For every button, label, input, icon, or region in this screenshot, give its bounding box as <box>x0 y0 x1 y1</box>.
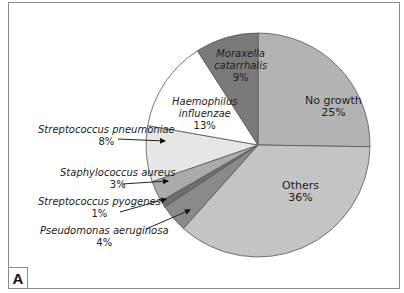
label-text: Streptococcus pneumoniae <box>38 124 175 136</box>
label-text: Pseudomonas aeruginosa <box>40 225 169 237</box>
label-pct: 25% <box>305 107 362 119</box>
label-pyogenes: Streptococcus pyogenes 1% <box>38 196 161 220</box>
label-pct: 3% <box>60 179 176 191</box>
label-text: Moraxella <box>214 48 267 60</box>
label-text: catarrhalis <box>214 60 267 72</box>
pie-slice-no-growth <box>258 33 370 147</box>
label-text: influenzae <box>172 108 237 120</box>
label-pct: 1% <box>38 208 161 220</box>
label-pneumoniae: Streptococcus pneumoniae 8% <box>38 124 175 148</box>
label-text: Haemophilus <box>172 96 237 108</box>
label-moraxella: Moraxella catarrhalis 9% <box>214 48 267 84</box>
label-others: Others 36% <box>282 180 319 204</box>
label-pseudomonas: Pseudomonas aeruginosa 4% <box>40 225 169 249</box>
label-pct: 9% <box>214 72 267 84</box>
label-pct: 4% <box>40 237 169 249</box>
label-text: Staphylococcus aureus <box>60 167 176 179</box>
panel-letter: A <box>8 267 28 289</box>
label-text: Streptococcus pyogenes <box>38 196 161 208</box>
label-no-growth: No growth 25% <box>305 95 362 119</box>
label-pct: 8% <box>38 136 175 148</box>
label-pct: 36% <box>282 192 319 204</box>
label-haemophilus: Haemophilus influenzae 13% <box>172 96 237 132</box>
label-aureus: Staphylococcus aureus 3% <box>60 167 176 191</box>
label-pct: 13% <box>172 120 237 132</box>
